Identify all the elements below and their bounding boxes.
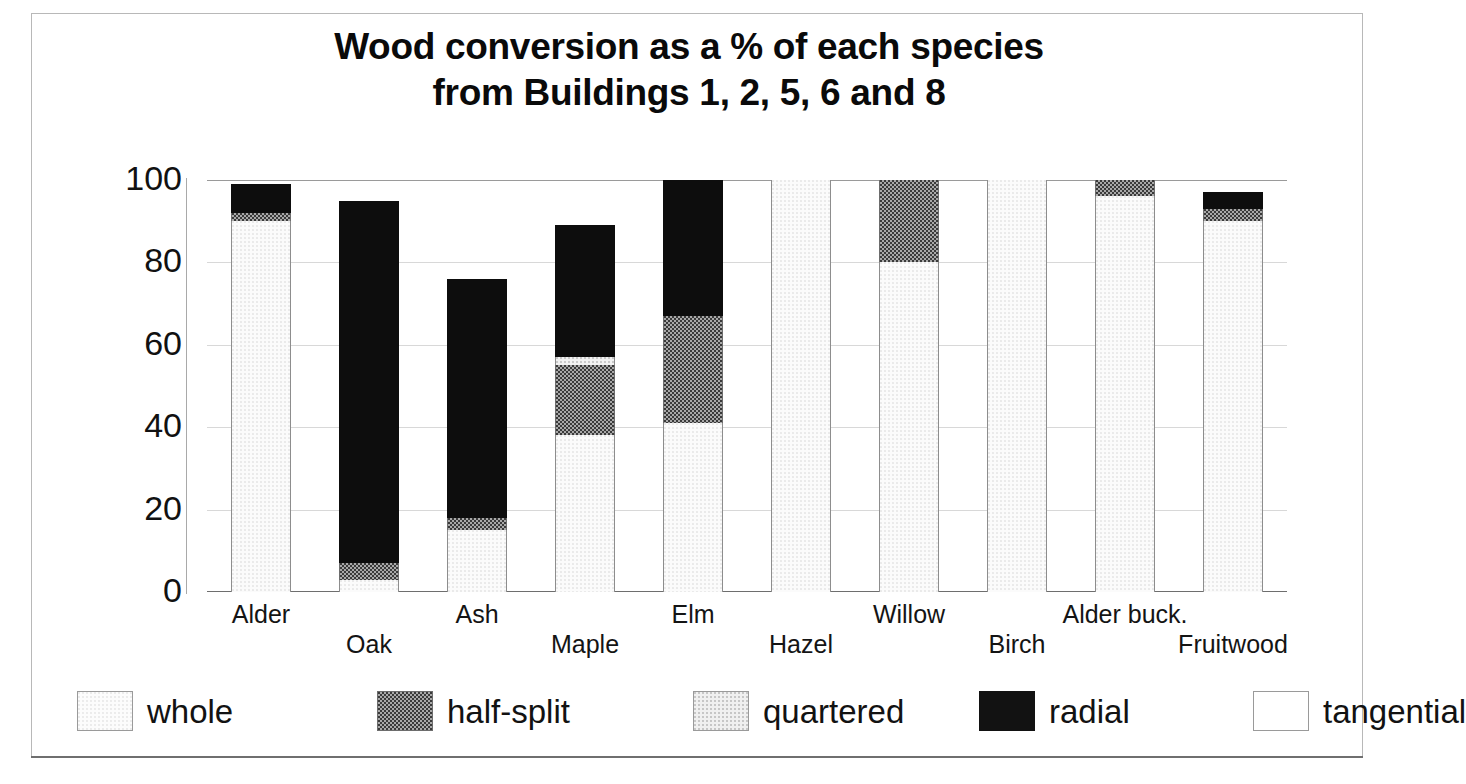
x-tick-label: Hazel <box>716 630 886 658</box>
bar-willow[interactable] <box>879 180 939 592</box>
bar-segment-radial <box>339 201 399 564</box>
legend-item-whole[interactable]: whole <box>77 691 233 731</box>
chart-legend: wholehalf-splitquarteredradialtangential <box>31 682 1363 740</box>
bar-segment-whole <box>771 180 831 592</box>
y-axis-tick-labels: 020406080100 <box>42 0 182 784</box>
bar-alder[interactable] <box>231 184 291 592</box>
x-tick-label: Alder <box>176 600 346 628</box>
bar-segment-radial <box>447 279 507 518</box>
bar-maple[interactable] <box>555 225 615 592</box>
x-axis-tick-labels: AlderOakAshMapleElmHazelWillowBirchAlder… <box>207 596 1287 676</box>
legend-label: half-split <box>447 695 570 728</box>
x-tick-label: Birch <box>932 630 1102 658</box>
y-axis-line <box>186 178 187 594</box>
bar-segment-whole <box>1203 221 1263 592</box>
bar-segment-whole <box>555 435 615 592</box>
bar-segment-halfsplit <box>879 180 939 262</box>
bar-segment-whole <box>663 423 723 592</box>
bar-segment-halfsplit <box>339 563 399 579</box>
x-tick-label: Ash <box>392 600 562 628</box>
y-tick-label: 80 <box>62 243 182 277</box>
bar-segment-radial <box>1203 192 1263 208</box>
bar-alder-buck[interactable] <box>1095 180 1155 592</box>
legend-swatch-halfsplit <box>377 691 433 731</box>
bar-ash[interactable] <box>447 279 507 592</box>
bar-segment-halfsplit <box>231 213 291 221</box>
chart-title: Wood conversion as a % of each species f… <box>0 24 1378 116</box>
bar-segment-halfsplit <box>555 365 615 435</box>
bar-segment-radial <box>555 225 615 357</box>
legend-label: radial <box>1049 695 1130 728</box>
bar-segment-whole <box>879 262 939 592</box>
bar-elm[interactable] <box>663 180 723 592</box>
bar-hazel[interactable] <box>771 180 831 592</box>
x-tick-label: Oak <box>284 630 454 658</box>
y-tick-label: 100 <box>62 161 182 195</box>
bar-fruitwood[interactable] <box>1203 192 1263 592</box>
bar-segment-whole <box>987 180 1047 592</box>
bar-oak[interactable] <box>339 201 399 592</box>
x-tick-label: Alder buck. <box>1040 600 1210 628</box>
bar-segment-whole <box>1095 196 1155 592</box>
bar-segment-whole <box>339 580 399 592</box>
y-tick-label: 20 <box>62 491 182 525</box>
legend-separator <box>31 756 1363 758</box>
bar-segment-whole <box>231 221 291 592</box>
bar-segment-halfsplit <box>663 316 723 423</box>
x-tick-label: Maple <box>500 630 670 658</box>
bar-segment-quartered <box>555 357 615 365</box>
bar-segment-halfsplit <box>447 518 507 530</box>
legend-item-halfsplit[interactable]: half-split <box>377 691 570 731</box>
legend-swatch-tangential <box>1253 691 1309 731</box>
x-tick-label: Elm <box>608 600 778 628</box>
x-tick-label: Willow <box>824 600 994 628</box>
bar-birch[interactable] <box>987 180 1047 592</box>
legend-swatch-whole <box>77 691 133 731</box>
legend-item-radial[interactable]: radial <box>979 691 1130 731</box>
legend-swatch-radial <box>979 691 1035 731</box>
bar-segment-halfsplit <box>1203 209 1263 221</box>
bar-segment-radial <box>663 180 723 316</box>
bar-segment-halfsplit <box>1095 180 1155 196</box>
legend-label: whole <box>147 695 233 728</box>
legend-swatch-quartered <box>693 691 749 731</box>
y-tick-label: 60 <box>62 326 182 360</box>
legend-label: tangential <box>1323 695 1466 728</box>
bar-segment-radial <box>231 184 291 213</box>
legend-item-tangential[interactable]: tangential <box>1253 691 1466 731</box>
plot-area-wrapper <box>207 180 1287 592</box>
x-tick-label: Fruitwood <box>1148 630 1318 658</box>
legend-label: quartered <box>763 695 904 728</box>
y-tick-label: 40 <box>62 408 182 442</box>
y-tick-label: 0 <box>62 573 182 607</box>
legend-item-quartered[interactable]: quartered <box>693 691 904 731</box>
bar-segment-whole <box>447 530 507 592</box>
